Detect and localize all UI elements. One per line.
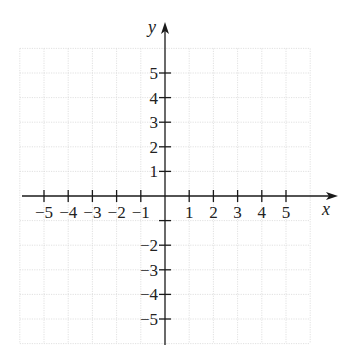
y-tick-label: −2 (140, 236, 158, 255)
y-axis-label: y (146, 17, 156, 37)
x-tick-label: −3 (83, 203, 101, 222)
coordinate-plane: x y −5−4−3−2−112345 54321−2−3−4−5 (0, 0, 354, 361)
x-tick-label: 4 (258, 203, 267, 222)
axes: x y (22, 17, 338, 345)
x-tick-label: 2 (209, 203, 218, 222)
y-tick-label: 3 (150, 113, 159, 132)
x-axis-label: x (321, 199, 330, 219)
x-tick-label: 3 (233, 203, 242, 222)
y-tick-label: −5 (140, 310, 158, 329)
y-tick-label: 1 (150, 162, 159, 181)
y-tick-label: −4 (140, 285, 159, 304)
x-tick-label: −2 (108, 203, 126, 222)
y-tick-label: 5 (150, 64, 159, 83)
x-tick-label: −5 (35, 203, 53, 222)
x-tick-label: 5 (282, 203, 291, 222)
y-tick-label: 2 (150, 138, 159, 157)
x-tick-label: −4 (59, 203, 78, 222)
y-tick-label: 4 (150, 89, 159, 108)
x-tick-label: 1 (185, 203, 194, 222)
x-ticks: −5−4−3−2−112345 (35, 190, 290, 222)
y-tick-label: −3 (140, 261, 158, 280)
x-tick-label: −1 (132, 203, 150, 222)
